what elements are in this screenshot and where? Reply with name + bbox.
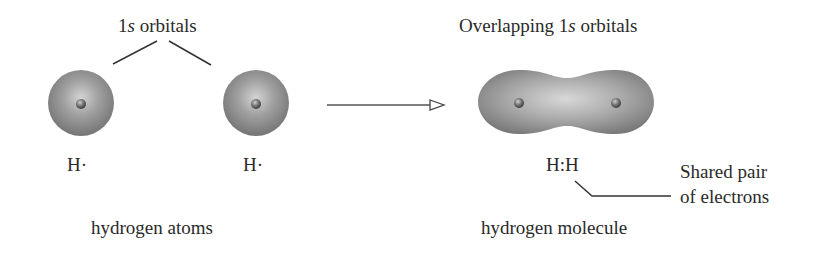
shared-pair-leader-line [575,181,671,196]
orbital-label-italic: s [128,15,135,36]
atom-symbol-left: H· [67,155,87,174]
overlap-title-prefix: Overlapping 1 [459,15,568,36]
lewis-structure: H:H [546,155,579,174]
hydrogen-atom-right [223,70,289,136]
atom-symbol-right: H· [243,155,263,174]
hydrogen-molecule-orbital [478,70,654,134]
hydrogen-atom-left [48,70,114,136]
orbital-label-prefix: 1 [118,15,128,36]
caption-hydrogen-molecule: hydrogen molecule [481,218,627,237]
overlap-title: Overlapping 1s orbitals [459,16,637,35]
caption-hydrogen-atoms: hydrogen atoms [91,218,213,237]
shared-pair-annotation-line1: Shared pair [680,162,767,181]
nucleus-icon [611,98,621,108]
orbital-leader-line-left [113,41,157,64]
nucleus-icon [251,99,261,109]
orbital-leader-line-right [169,41,211,65]
overlap-title-suffix: orbitals [576,15,638,36]
nucleus-icon [76,99,86,109]
orbital-label: 1s orbitals [118,16,197,35]
nucleus-icon [514,98,524,108]
overlap-title-italic: s [568,15,575,36]
shared-pair-annotation-line2: of electrons [680,187,769,206]
reaction-arrow-icon [327,100,444,110]
orbital-label-suffix: orbitals [135,15,197,36]
